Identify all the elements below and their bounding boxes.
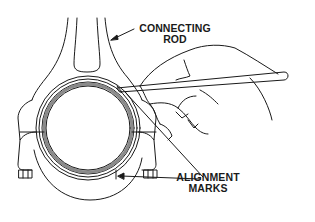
label-alignment-marks-line2: MARKS	[168, 183, 248, 194]
cap-bolt-left	[19, 170, 32, 178]
bearing-bore	[46, 86, 130, 170]
rod-beam-recess	[74, 18, 100, 72]
rod-cap-right	[142, 140, 156, 170]
rod-cap-arc	[34, 150, 142, 200]
label-connecting-rod: CONNECTING ROD	[126, 23, 224, 45]
label-connecting-rod-line2: ROD	[126, 34, 224, 45]
hand-outline	[140, 45, 278, 86]
label-alignment-marks: ALIGNMENT MARKS	[168, 172, 248, 194]
big-end-housing	[18, 100, 36, 140]
bearing-shell-outer	[42, 82, 134, 174]
rod-beam-left-edge	[32, 18, 68, 100]
diagram-canvas: CONNECTING ROD ALIGNMENT MARKS	[0, 0, 315, 222]
bearing-shell	[44, 84, 132, 172]
rod-cap-left	[18, 140, 32, 170]
